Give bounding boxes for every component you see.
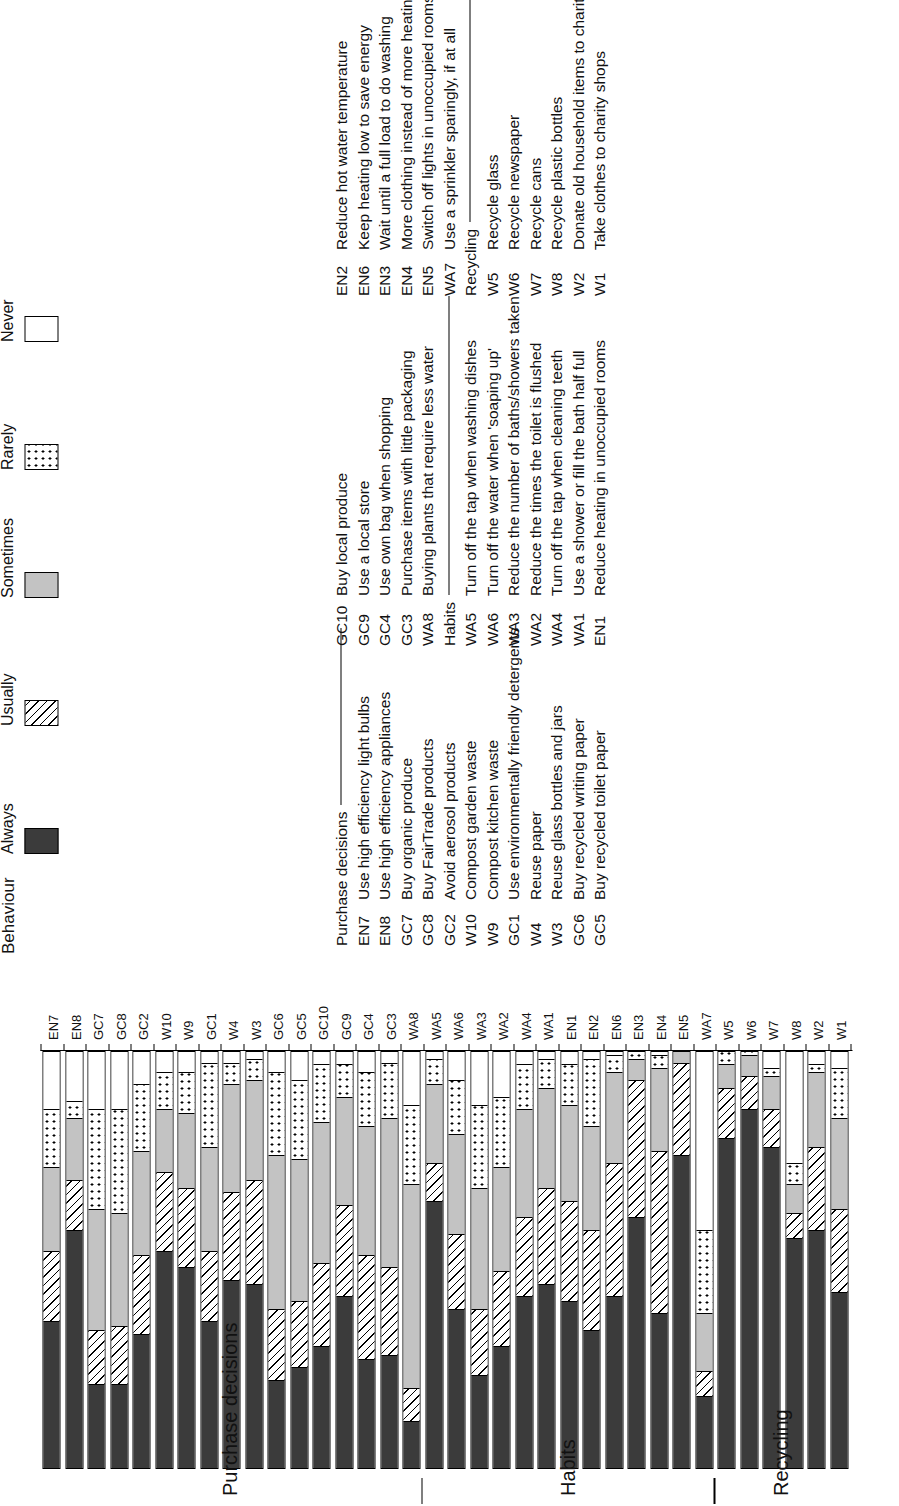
key-code: EN4 (395, 250, 417, 296)
key-row-w1: W1Take clothes to charity shops (588, 0, 610, 296)
segment-rarely (336, 1065, 352, 1098)
key-row-gc10: GC10Buy local produce (330, 296, 352, 646)
axis-tick (445, 1044, 446, 1051)
segment-sometimes (336, 1098, 352, 1206)
category-label-gc4: GC4 (361, 1013, 374, 1040)
axis-tick (310, 1044, 311, 1051)
segment-always (88, 1385, 104, 1468)
segment-usually (718, 1089, 734, 1139)
bar-en5 (672, 1051, 690, 1469)
key-code: WA4 (545, 596, 567, 646)
key-text: Buy FairTrade products (416, 739, 438, 900)
axis-tick (490, 1044, 491, 1051)
key-text: Recycle glass (481, 154, 503, 250)
key-code: W7 (524, 250, 546, 296)
segment-sometimes (493, 1169, 509, 1273)
axis-tick (423, 1044, 424, 1051)
segment-never (66, 1052, 82, 1102)
key-row-w5: W5Recycle glass (481, 0, 503, 296)
segment-rarely (426, 1060, 442, 1085)
bar-row (42, 1051, 60, 1469)
key-row-wa7: WA7Use a sprinkler sparingly, if at all (438, 0, 460, 296)
segment-usually (178, 1189, 194, 1268)
key-heading-rule (469, 0, 470, 222)
key-text: Recycle newspaper (502, 115, 524, 250)
key-row-wa8: WA8Buying plants that require less water (416, 296, 438, 646)
segment-usually (628, 1081, 644, 1218)
key-heading-habits: Habits (438, 296, 460, 646)
key-text: Buy local produce (330, 473, 352, 596)
category-label-gc2: GC2 (136, 1013, 149, 1040)
segment-never (246, 1052, 262, 1060)
axis-tick (288, 1044, 289, 1051)
axis-tick (580, 1044, 581, 1051)
segment-never (111, 1052, 127, 1110)
segment-never (43, 1052, 59, 1110)
bar-row (650, 1051, 668, 1469)
bar-w3 (245, 1051, 263, 1469)
segment-usually (246, 1181, 262, 1285)
axis-tick (715, 1044, 716, 1051)
key-heading-purchase-decisions: Purchase decisions (330, 628, 352, 946)
key-code: WA5 (459, 596, 481, 646)
key-column-purchase-decisions: Purchase decisions EN7Use high efficienc… (330, 628, 610, 946)
key-text: Use high efficiency light bulbs (352, 696, 374, 900)
category-label-w6: W6 (744, 1021, 757, 1041)
bar-w5 (717, 1051, 735, 1469)
key-text: Use a local store (352, 481, 374, 596)
legend-label-sometimes: Sometimes (0, 518, 16, 598)
key-code: EN7 (352, 900, 374, 946)
key-text: Compost kitchen waste (481, 740, 503, 900)
segment-rarely (313, 1065, 329, 1123)
bar-gc5 (290, 1051, 308, 1469)
segment-usually (448, 1235, 464, 1310)
segment-rarely (291, 1081, 307, 1160)
axis-tick (648, 1044, 649, 1051)
bar-wa3 (470, 1051, 488, 1469)
key-row-wa5: WA5Turn off the tap when washing dishes (459, 296, 481, 646)
segment-rarely (538, 1060, 554, 1089)
category-label-gc10: GC10 (316, 1006, 329, 1040)
bar-w10 (155, 1051, 173, 1469)
key-text: Switch off lights in unoccupied rooms (416, 0, 438, 250)
axis-tick (85, 1044, 86, 1051)
bar-en4 (650, 1051, 668, 1469)
key-row-en7: EN7Use high efficiency light bulbs (352, 628, 374, 946)
segment-sometimes (808, 1073, 824, 1148)
key-row-en3: EN3Wait until a full load to do washing (373, 0, 395, 296)
key-rows-bottom: W5Recycle glassW6Recycle newspaperW7Recy… (481, 0, 610, 296)
segment-always (651, 1314, 667, 1468)
bar-row (470, 1051, 488, 1469)
segment-sometimes (448, 1135, 464, 1235)
key-heading-recycling: Recycling (459, 0, 481, 296)
bar-row (312, 1051, 330, 1469)
axis-tick (828, 1044, 829, 1051)
segment-never (426, 1052, 442, 1060)
segment-usually (808, 1148, 824, 1231)
category-label-w3: W3 (249, 1021, 262, 1041)
category-label-en2: EN2 (586, 1015, 599, 1040)
bar-wa6 (447, 1051, 465, 1469)
bar-row (110, 1051, 128, 1469)
key-code: WA1 (567, 596, 589, 646)
axis-tick (468, 1044, 469, 1051)
key-code: W2 (567, 250, 589, 296)
axis-tick (108, 1044, 109, 1051)
key-text: Avoid aerosol products (438, 743, 460, 900)
segment-never (516, 1052, 532, 1064)
key-text: Turn off the tap when cleaning teeth (545, 350, 567, 596)
bar-row (740, 1051, 758, 1469)
legend-label-rarely: Rarely (0, 424, 16, 470)
key-code: GC6 (567, 900, 589, 946)
key-row-wa4: WA4Turn off the tap when cleaning teeth (545, 296, 567, 646)
key-row-w9: W9Compost kitchen waste (481, 628, 503, 946)
segment-always (673, 1156, 689, 1468)
segment-always (718, 1139, 734, 1468)
bar-row (830, 1051, 848, 1469)
axis-tick (670, 1044, 671, 1051)
segment-always (516, 1297, 532, 1468)
bar-gc6 (267, 1051, 285, 1469)
bar-row (290, 1051, 308, 1469)
key-row-wa3: WA3Reduce the number of baths/showers ta… (502, 296, 524, 646)
key-row-wa6: WA6Turn off the water when 'soaping up' (481, 296, 503, 646)
